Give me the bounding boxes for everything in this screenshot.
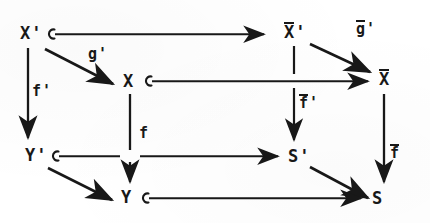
prime-mark: ' bbox=[366, 20, 375, 38]
edge-xprime-to-xbarprime bbox=[49, 29, 264, 38]
node-xbar: X bbox=[379, 70, 389, 88]
node-x-prime: X' bbox=[20, 25, 42, 42]
edge-yprime-to-sprime bbox=[53, 151, 278, 160]
edge-label-fbar-prime-base: f bbox=[299, 95, 308, 111]
prime-mark: ' bbox=[36, 145, 46, 165]
node-s-prime-base: S bbox=[288, 146, 298, 166]
node-x-prime-base: X bbox=[20, 23, 30, 43]
node-s-base: S bbox=[372, 188, 382, 208]
edge-label-g-prime: g' bbox=[88, 47, 107, 62]
edge-x-to-xbar bbox=[146, 76, 368, 85]
edge-sprime-to-s bbox=[310, 167, 368, 198]
commutative-diagram-canvas: X' X' X X Y' S' Y S g' g' f' f' f f bbox=[0, 0, 430, 223]
prime-mark: ' bbox=[299, 146, 309, 166]
node-y-prime: Y' bbox=[25, 147, 47, 164]
edge-label-fbar-prime: f' bbox=[299, 95, 318, 111]
edge-xbarprime-to-xbar bbox=[310, 44, 370, 72]
edge-label-fbar: f bbox=[390, 145, 399, 161]
edge-label-g-prime-base: g bbox=[88, 45, 97, 63]
edge-label-gbar-prime: g' bbox=[356, 21, 375, 37]
edge-label-gbar-prime-base: g bbox=[356, 21, 365, 37]
prime-mark: ' bbox=[31, 23, 41, 43]
node-xbar-base: X bbox=[379, 70, 389, 88]
node-y: Y bbox=[121, 189, 131, 206]
edge-label-f-prime-base: f bbox=[32, 82, 41, 100]
node-y-base: Y bbox=[121, 187, 131, 207]
edge-yprime-to-y bbox=[48, 168, 112, 200]
edge-label-f-prime: f' bbox=[32, 84, 51, 99]
prime-mark: ' bbox=[309, 94, 318, 112]
node-xbar-prime-base: X bbox=[284, 23, 294, 41]
node-y-prime-base: Y bbox=[25, 145, 35, 165]
prime-mark: ' bbox=[98, 45, 107, 63]
node-s-prime: S' bbox=[288, 148, 310, 165]
prime-mark: ' bbox=[42, 82, 51, 100]
node-x: X bbox=[123, 73, 133, 90]
edge-y-to-s bbox=[143, 193, 361, 202]
node-s: S bbox=[372, 190, 382, 207]
node-xbar-prime: X' bbox=[284, 23, 306, 41]
edge-label-f-base: f bbox=[139, 124, 148, 142]
edge-label-f: f bbox=[139, 126, 148, 141]
node-x-base: X bbox=[123, 71, 133, 91]
edge-label-fbar-base: f bbox=[390, 145, 399, 161]
prime-mark: ' bbox=[295, 22, 305, 42]
